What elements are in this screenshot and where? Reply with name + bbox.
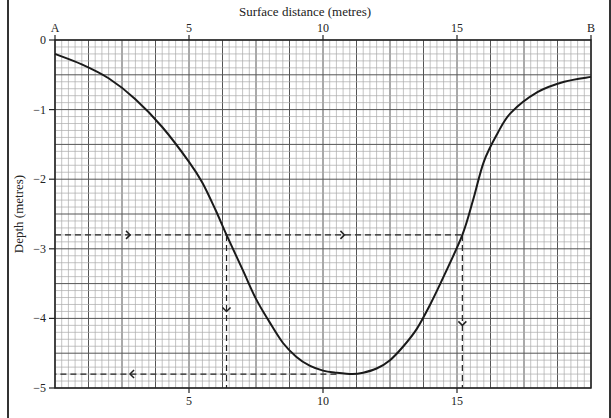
- arrow-down-icon: [458, 321, 466, 325]
- x-top-tick-label: A: [51, 21, 60, 35]
- y-tick-label: 0: [40, 33, 46, 47]
- y-tick-label: −5: [33, 381, 46, 395]
- x-top-tick-label: 15: [451, 21, 463, 35]
- x-top-tick-label: 5: [186, 21, 192, 35]
- y-tick-label: −4: [33, 311, 46, 325]
- x-top-tick-label: 10: [317, 21, 329, 35]
- x-bottom-tick-label: 15: [451, 394, 463, 408]
- x-bottom-tick-label: 5: [186, 394, 192, 408]
- y-tick-label: −3: [33, 242, 46, 256]
- x-bottom-tick-label: 10: [317, 394, 329, 408]
- y-tick-label: −2: [33, 172, 46, 186]
- x-top-tick-label: B: [587, 21, 595, 35]
- y-tick-label: −1: [33, 103, 46, 117]
